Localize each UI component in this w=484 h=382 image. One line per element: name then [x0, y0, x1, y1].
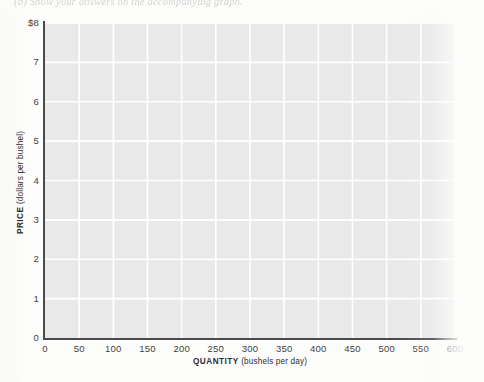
y-tick-label: 4: [34, 176, 39, 186]
x-axis-title-bold: QUANTITY: [193, 357, 239, 366]
x-tick-label: 0: [42, 344, 47, 354]
y-tick-label: 3: [34, 215, 39, 225]
y-tick-label: $8: [28, 18, 39, 28]
y-axis-line: [43, 21, 45, 340]
gridlines: [45, 23, 455, 338]
scan-fade-top: [0, 0, 484, 16]
y-tick-label: 7: [34, 57, 39, 67]
x-tick-label: 50: [74, 344, 85, 354]
y-tick-label: 1: [34, 294, 39, 304]
y-tick-label: 6: [34, 97, 39, 107]
x-axis-tick-labels: 050100150200250300350400450500550600: [0, 344, 484, 358]
x-tick-label: 550: [413, 344, 429, 354]
x-tick-label: 600: [447, 344, 463, 354]
x-tick-label: 450: [344, 344, 360, 354]
x-tick-label: 250: [208, 344, 224, 354]
x-axis-line: [43, 338, 457, 340]
x-axis-title-rest: (bushels per day): [239, 357, 307, 366]
graph-figure: $876543210 05010015020025030035040045050…: [0, 0, 484, 382]
x-tick-label: 350: [276, 344, 292, 354]
x-tick-label: 500: [378, 344, 394, 354]
y-tick-label: 0: [34, 333, 39, 343]
y-axis-title: PRICE (dollars per bushel): [16, 123, 25, 243]
x-axis-title: QUANTITY (bushels per day): [45, 357, 455, 366]
y-axis-title-bold: PRICE: [16, 207, 25, 235]
y-tick-label: 5: [34, 136, 39, 146]
x-tick-label: 400: [310, 344, 326, 354]
x-tick-label: 150: [139, 344, 155, 354]
y-axis-title-rest: (dollars per bushel): [16, 131, 25, 207]
x-tick-label: 200: [173, 344, 189, 354]
x-tick-label: 100: [105, 344, 121, 354]
y-tick-label: 2: [34, 254, 39, 264]
x-tick-label: 300: [242, 344, 258, 354]
plot-area: [45, 23, 455, 338]
